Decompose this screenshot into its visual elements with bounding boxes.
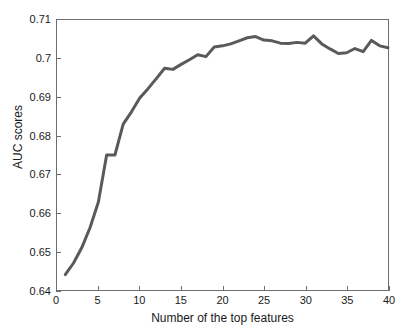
x-tick-label-5: 5 bbox=[95, 294, 101, 307]
x-tick-label-30: 30 bbox=[300, 294, 312, 307]
x-tick-label-20: 20 bbox=[216, 294, 228, 307]
x-tick-label-35: 35 bbox=[341, 294, 353, 307]
auc-line-series bbox=[57, 20, 388, 290]
chart-figure: 0510152025303540 0.640.650.660.670.680.6… bbox=[0, 0, 408, 335]
y-tick-label-0.67: 0.67 bbox=[30, 168, 51, 181]
x-tick-35 bbox=[347, 286, 348, 291]
y-tick-label-0.64: 0.64 bbox=[30, 285, 51, 298]
x-tick-label-0: 0 bbox=[53, 294, 59, 307]
x-tick-5 bbox=[98, 286, 99, 291]
x-tick-label-15: 15 bbox=[175, 294, 187, 307]
x-tick-label-25: 25 bbox=[258, 294, 270, 307]
auc-line-path bbox=[65, 36, 388, 275]
y-tick-0.64 bbox=[56, 291, 61, 292]
y-tick-0.71 bbox=[56, 19, 61, 20]
y-tick-0.69 bbox=[56, 97, 61, 98]
x-tick-20 bbox=[223, 286, 224, 291]
y-tick-label-0.69: 0.69 bbox=[30, 90, 51, 103]
y-tick-0.7 bbox=[56, 58, 61, 59]
x-tick-30 bbox=[306, 286, 307, 291]
plot-area bbox=[56, 19, 389, 291]
x-tick-40 bbox=[389, 286, 390, 291]
x-tick-label-10: 10 bbox=[133, 294, 145, 307]
y-tick-0.66 bbox=[56, 213, 61, 214]
x-tick-10 bbox=[139, 286, 140, 291]
y-tick-label-0.66: 0.66 bbox=[30, 207, 51, 220]
y-tick-label-0.68: 0.68 bbox=[30, 129, 51, 142]
x-tick-label-40: 40 bbox=[383, 294, 395, 307]
y-tick-0.67 bbox=[56, 174, 61, 175]
x-tick-25 bbox=[264, 286, 265, 291]
y-tick-0.68 bbox=[56, 136, 61, 137]
y-tick-0.65 bbox=[56, 252, 61, 253]
x-axis-title: Number of the top features bbox=[56, 311, 389, 325]
y-tick-label-0.71: 0.71 bbox=[30, 13, 51, 26]
y-tick-label-0.7: 0.7 bbox=[36, 51, 51, 64]
x-tick-15 bbox=[181, 286, 182, 291]
y-axis-title: AUC scores bbox=[11, 77, 25, 197]
y-tick-label-0.65: 0.65 bbox=[30, 246, 51, 259]
